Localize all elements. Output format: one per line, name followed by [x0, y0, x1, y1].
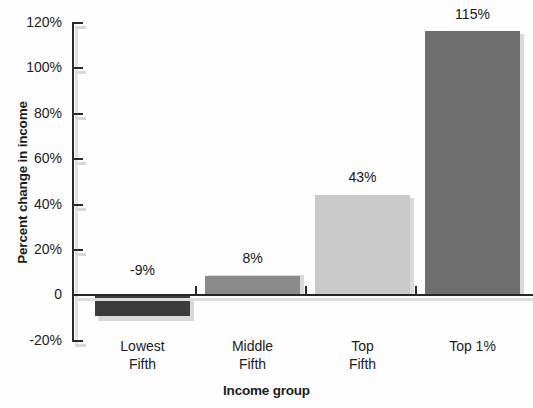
category-label-line2: Fifth	[349, 356, 376, 372]
y-tick-label-80: 80%	[0, 106, 62, 120]
y-tick-label-100: 100%	[0, 60, 62, 74]
bar-value-lowest-fifth: -9%	[95, 263, 190, 277]
y-tick-shadow-100	[75, 71, 86, 74]
y-tick-shadow-40	[75, 208, 86, 211]
y-tick-40	[72, 204, 83, 206]
y-tick-120	[72, 22, 83, 24]
bar-value-top-fifth: 43%	[315, 170, 410, 184]
y-tick-shadow-120	[75, 26, 86, 29]
bar-middle-fifth[interactable]	[205, 276, 300, 295]
category-label-line1: Top	[351, 338, 374, 354]
y-tick-shadow-20	[75, 253, 86, 256]
y-tick-80	[72, 113, 83, 115]
category-label-top-fifth: TopFifth	[305, 337, 420, 373]
x-axis-title: Income group	[0, 383, 533, 398]
y-tick-label-60: 60%	[0, 151, 62, 165]
category-label-line2: Fifth	[239, 356, 266, 372]
y-tick-shadow-80	[75, 117, 86, 120]
y-tick-20	[72, 249, 83, 251]
zero-line	[72, 294, 533, 296]
category-label-middle-fifth: MiddleFifth	[195, 337, 310, 373]
x-tick-3	[415, 286, 417, 295]
category-label-line1: Lowest	[120, 338, 164, 354]
y-axis-title: Percent change in income	[15, 68, 30, 298]
y-tick-label-0: 0	[0, 287, 62, 301]
y-tick-100	[72, 67, 83, 69]
bar-top-1pct[interactable]	[425, 31, 520, 295]
category-label-lowest-fifth: LowestFifth	[85, 337, 200, 373]
y-tick-label-120: 120%	[0, 15, 62, 29]
category-label-line2: Fifth	[129, 356, 156, 372]
category-label-line1: Top 1%	[449, 338, 496, 354]
bar-value-top-1pct: 115%	[425, 7, 520, 21]
y-tick-label-20: 20%	[0, 242, 62, 256]
bar-top-fifth[interactable]	[315, 195, 410, 295]
bar-value-middle-fifth: 8%	[205, 251, 300, 265]
bar-chart-figure: Percent change in income 120% 100% 80% 6…	[0, 0, 533, 408]
category-label-line1: Middle	[232, 338, 273, 354]
y-tick-neg20	[72, 340, 83, 342]
y-axis-spine	[72, 22, 74, 340]
y-tick-label-neg20: -20%	[0, 333, 62, 347]
zero-line-shadow	[75, 298, 533, 301]
y-tick-shadow-60	[75, 162, 86, 165]
y-tick-label-40: 40%	[0, 197, 62, 211]
x-tick-2	[305, 286, 307, 295]
y-tick-60	[72, 158, 83, 160]
x-tick-1	[195, 286, 197, 295]
category-label-top-1pct: Top 1%	[415, 337, 530, 355]
